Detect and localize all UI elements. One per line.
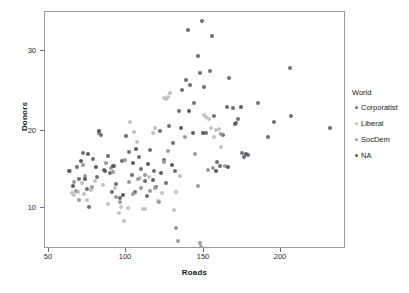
data-point [104, 161, 108, 165]
data-point [139, 186, 143, 190]
y-tick-label-20: 20 [14, 126, 36, 135]
data-point [94, 165, 98, 169]
data-point [171, 141, 175, 145]
data-point [168, 91, 172, 95]
data-point [192, 101, 196, 105]
data-point [127, 180, 131, 184]
legend-dot-icon [355, 154, 359, 158]
scatter-plot-figure: Donors 30 20 10 50 100 150 200 Roads Wor… [0, 0, 409, 293]
data-point [111, 164, 115, 168]
legend-item-label: Corporatist [361, 102, 398, 113]
data-point [87, 205, 91, 209]
legend-key [352, 154, 361, 158]
legend-item-label: Liberal [361, 118, 384, 129]
data-point [153, 186, 157, 190]
data-point [166, 95, 170, 99]
data-point [159, 171, 163, 175]
data-point [191, 131, 195, 135]
data-point [145, 194, 149, 198]
data-point [77, 198, 81, 202]
data-point [180, 88, 184, 92]
data-point [272, 120, 276, 124]
x-tick-label-200: 200 [265, 252, 295, 261]
data-point [164, 181, 168, 185]
data-point [218, 164, 222, 168]
data-point [328, 126, 332, 130]
data-point [196, 184, 200, 188]
data-point [217, 127, 221, 131]
data-point [81, 163, 85, 167]
y-tick-label-30: 30 [14, 46, 36, 55]
legend-item-socdem[interactable]: SocDem [352, 134, 409, 145]
data-point [148, 148, 152, 152]
data-point [123, 158, 127, 162]
legend-title: World [352, 88, 409, 97]
data-point [212, 114, 216, 118]
legend-dot-icon [355, 122, 359, 126]
data-point [81, 151, 85, 155]
data-point [173, 169, 177, 173]
y-tick-label-10: 10 [14, 203, 36, 212]
x-tick-label-100: 100 [110, 252, 140, 261]
data-point [103, 169, 107, 173]
data-point [136, 177, 140, 181]
data-point [239, 105, 243, 109]
data-point [127, 150, 131, 154]
data-point [121, 193, 125, 197]
legend-key [352, 106, 361, 110]
legend-item-corporatist[interactable]: Corporatist [352, 102, 409, 113]
data-point [170, 163, 174, 167]
data-point [233, 122, 237, 126]
legend-item-liberal[interactable]: Liberal [352, 118, 409, 129]
data-point [167, 124, 171, 128]
data-point [134, 147, 138, 151]
data-point [152, 169, 156, 173]
data-point [118, 200, 122, 204]
data-point [207, 117, 211, 121]
data-point [227, 76, 231, 80]
data-point [90, 185, 94, 189]
data-point [212, 135, 216, 139]
data-point [151, 178, 155, 182]
data-point [166, 149, 170, 153]
data-point [184, 78, 188, 82]
data-point [174, 190, 178, 194]
data-point [128, 120, 132, 124]
data-point [153, 126, 157, 130]
legend-item-na[interactable]: NA [352, 150, 409, 161]
data-point [79, 159, 83, 163]
data-point [110, 190, 114, 194]
legend-dot-icon [355, 138, 359, 142]
data-point [148, 189, 152, 193]
data-point [93, 179, 97, 183]
data-points-layer [45, 12, 344, 247]
data-point [288, 66, 292, 70]
data-point [231, 106, 235, 110]
data-point [215, 160, 219, 164]
data-point [106, 202, 110, 206]
data-point [126, 206, 130, 210]
data-point [187, 109, 191, 113]
data-point [82, 192, 86, 196]
data-point [225, 105, 229, 109]
data-point [209, 126, 213, 130]
data-point [137, 155, 141, 159]
data-point [71, 184, 75, 188]
data-point [219, 145, 223, 149]
legend-key [352, 138, 361, 142]
data-point [160, 191, 164, 195]
data-point [158, 129, 162, 133]
data-point [186, 28, 190, 32]
data-point [178, 174, 182, 178]
legend-items: CorporatistLiberalSocDemNA [352, 102, 409, 161]
data-point [183, 135, 187, 139]
data-point [202, 85, 206, 89]
data-point [91, 157, 95, 161]
data-point [208, 69, 212, 73]
data-point [177, 109, 181, 113]
data-point [74, 189, 78, 193]
data-point [200, 19, 204, 23]
legend: World CorporatistLiberalSocDemNA [352, 88, 409, 166]
data-point [67, 169, 71, 173]
data-point [143, 207, 147, 211]
